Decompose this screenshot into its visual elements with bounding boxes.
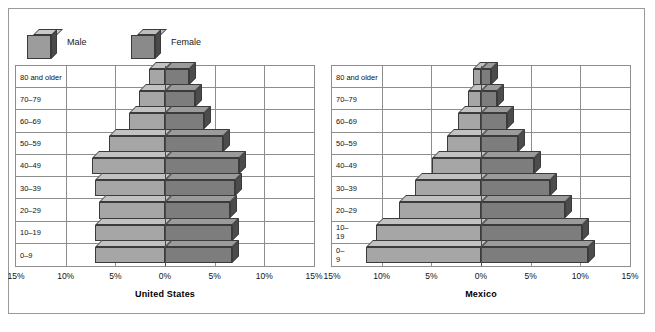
axis-tick-label: 15% (305, 271, 322, 281)
age-band-label: 60–69 (336, 117, 357, 126)
chart-united-states: 80 and older70–7960–6950–5940–4930–3920–… (15, 65, 315, 299)
age-band-label: 40–49 (20, 161, 41, 170)
bar-male (473, 69, 481, 85)
age-band-label: 50–59 (336, 139, 357, 148)
bar-female (165, 113, 204, 129)
bar-female (481, 91, 497, 107)
axis-tick-label: 15% (7, 271, 24, 281)
bar-male (376, 225, 481, 241)
bar-female (165, 247, 232, 263)
axis-tick-label: 15% (323, 271, 340, 281)
bar-female (165, 136, 223, 152)
bar-female (481, 69, 491, 85)
age-band-label: 20–29 (20, 205, 41, 214)
chart-mexico: 80 and older70–7960–6950–5940–4930–3920–… (331, 65, 631, 299)
bar-male (432, 158, 481, 174)
axis-tick-label: 10% (373, 271, 390, 281)
bar-female (481, 158, 534, 174)
age-band-label: 40–49 (336, 161, 357, 170)
axis-tick-label: 0% (159, 271, 171, 281)
bar-male (399, 202, 481, 218)
bar-male (129, 113, 165, 129)
bar-female (481, 225, 582, 241)
chart-title-mexico: Mexico (331, 289, 631, 299)
axis-tick-label: 0% (475, 271, 487, 281)
x-axis-mexico: 15%10%5%0%5%10%15% (331, 267, 631, 287)
axis-tick-label: 5% (425, 271, 437, 281)
bar-male (468, 91, 481, 107)
bar-male (99, 202, 165, 218)
bar-male (149, 69, 165, 85)
plot-area-mexico: 80 and older70–7960–6950–5940–4930–3920–… (331, 65, 631, 267)
bar-male (95, 247, 165, 263)
bar-female (165, 69, 189, 85)
age-band-label: 30–39 (20, 183, 41, 192)
age-band-label: 0–9 (20, 250, 33, 259)
bar-female (481, 180, 550, 196)
bar-female (165, 158, 239, 174)
axis-tick-label: 10% (256, 271, 273, 281)
age-band-label: 70–79 (336, 94, 357, 103)
center-axis-line (165, 66, 166, 266)
gridline (66, 66, 67, 266)
axis-tick-label: 10% (57, 271, 74, 281)
age-band-label: 60–69 (20, 117, 41, 126)
center-axis-line (481, 66, 482, 266)
x-axis-united-states: 15%10%5%0%5%10%15% (15, 267, 315, 287)
legend-label-female: Female (171, 37, 201, 47)
bar-female (165, 180, 235, 196)
axis-tick-label: 15% (621, 271, 638, 281)
bar-male (95, 180, 165, 196)
axis-tick-label: 5% (525, 271, 537, 281)
bar-female (165, 91, 195, 107)
bar-male (415, 180, 481, 196)
chart-panel: Male Female 80 and older70–7960–6950–594… (8, 8, 645, 314)
bar-male (139, 91, 165, 107)
legend-label-male: Male (67, 37, 87, 47)
age-band-label: 20–29 (336, 205, 357, 214)
age-band-label: 80 and older (336, 72, 378, 81)
bar-male (447, 136, 481, 152)
bar-female (481, 202, 565, 218)
gridline (264, 66, 265, 266)
bar-male (458, 113, 481, 129)
age-band-label: 80 and older (20, 72, 62, 81)
age-band-label: 10–19 (20, 228, 41, 237)
age-band-label: 10– 19 (336, 223, 349, 241)
age-band-label: 30–39 (336, 183, 357, 192)
cube-icon (131, 29, 161, 59)
cube-icon (27, 29, 57, 59)
bar-female (165, 202, 230, 218)
bar-female (165, 225, 232, 241)
bar-male (366, 247, 481, 263)
bar-male (95, 225, 165, 241)
axis-tick-label: 5% (109, 271, 121, 281)
bar-male (92, 158, 165, 174)
bar-male (109, 136, 165, 152)
bar-female (481, 113, 507, 129)
axis-tick-label: 10% (572, 271, 589, 281)
plot-area-united-states: 80 and older70–7960–6950–5940–4930–3920–… (15, 65, 315, 267)
age-band-label: 0– 9 (336, 246, 344, 264)
bar-female (481, 247, 588, 263)
axis-tick-label: 5% (209, 271, 221, 281)
age-band-label: 70–79 (20, 94, 41, 103)
age-band-label: 50–59 (20, 139, 41, 148)
chart-title-united-states: United States (15, 289, 315, 299)
bar-female (481, 136, 518, 152)
